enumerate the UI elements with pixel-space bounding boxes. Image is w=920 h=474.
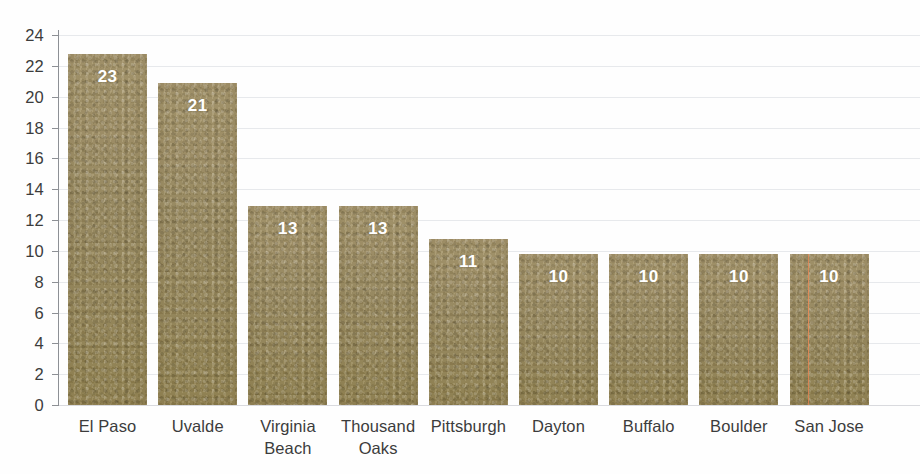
bar[interactable]: 10 [519,254,598,405]
scan-fold-line [808,254,810,405]
bar[interactable]: 21 [158,83,237,405]
bar-value-label: 21 [158,97,237,114]
y-axis-tick-mark [52,405,58,406]
y-axis-tick-label: 18 [4,120,44,137]
y-axis-tick-mark [52,189,58,190]
bar-value-label: 13 [339,220,418,237]
y-axis-line [58,30,59,406]
bar-value-label: 10 [699,268,778,285]
gridline [58,405,920,406]
gridline [58,66,920,67]
y-axis-tick-label: 20 [4,89,44,106]
y-axis-tick-mark [52,313,58,314]
y-axis-tick-label: 12 [4,212,44,229]
bar-chart: 232113131110101010 242220181614121086420… [0,0,920,474]
x-axis-label: El Paso [60,415,155,437]
bar-value-label: 13 [248,220,327,237]
y-axis-tick-label: 14 [4,181,44,198]
y-axis-tick-label: 22 [4,58,44,75]
x-axis-label: San Jose [782,415,877,437]
bar[interactable]: 13 [339,206,418,405]
x-axis-label: Pittsburgh [421,415,516,437]
y-axis-tick-mark [52,158,58,159]
x-axis-label: Boulder [691,415,786,437]
y-axis-tick-label: 8 [4,274,44,291]
plot-area: 232113131110101010 [58,0,920,405]
y-axis-tick-mark [52,220,58,221]
y-axis-tick-label: 24 [4,27,44,44]
bar[interactable]: 10 [609,254,688,405]
bar[interactable]: 10 [699,254,778,405]
y-axis-tick-mark [52,128,58,129]
y-axis-tick-label: 4 [4,335,44,352]
bar-value-label: 10 [609,268,688,285]
y-axis-tick-label: 6 [4,305,44,322]
bar[interactable]: 11 [429,239,508,406]
x-axis-label: Virginia Beach [240,415,335,460]
bar-value-label: 23 [68,68,147,85]
bar[interactable]: 13 [248,206,327,405]
x-axis-label: Uvalde [150,415,245,437]
y-axis-tick-label: 16 [4,150,44,167]
y-axis-tick-mark [52,97,58,98]
x-axis-label: Thousand Oaks [331,415,426,460]
bar[interactable]: 10 [790,254,869,405]
y-axis-tick-mark [52,66,58,67]
bar[interactable]: 23 [68,54,147,406]
y-axis-tick-mark [52,282,58,283]
y-axis-tick-label: 10 [4,243,44,260]
gridline [58,35,920,36]
bar-value-label: 10 [519,268,598,285]
y-axis-tick-mark [52,251,58,252]
bar-value-label: 10 [790,268,869,285]
y-axis-tick-label: 2 [4,366,44,383]
y-axis-tick-mark [52,343,58,344]
y-axis-tick-mark [52,35,58,36]
x-axis-label: Buffalo [601,415,696,437]
y-axis-tick-mark [52,374,58,375]
x-axis-label: Dayton [511,415,606,437]
y-axis-tick-label: 0 [4,397,44,414]
bar-value-label: 11 [429,253,508,270]
